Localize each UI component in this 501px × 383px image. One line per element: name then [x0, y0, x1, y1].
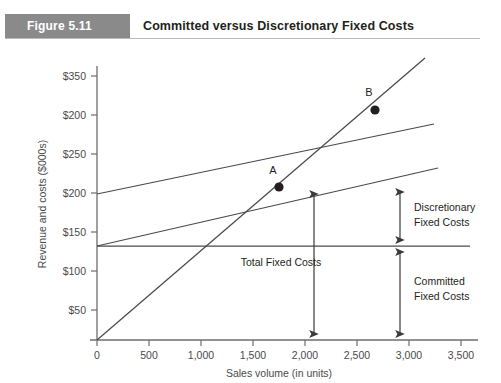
figure-header: Figure 5.11 Committed versus Discretiona…: [0, 14, 501, 40]
y-tick-label-300: $200: [63, 109, 87, 121]
figure-number-badge: Figure 5.11: [5, 14, 130, 38]
marker-a-label: A: [269, 164, 277, 176]
chart-plot-area: $50 $100 $150 $200 $250 $200 $350 0: [0, 44, 501, 383]
x-tick-label-2500: 2,500: [344, 349, 370, 361]
y-axis-ticks: [91, 76, 97, 310]
series-revenue: [97, 58, 425, 340]
series-total-fixed-costs: [97, 168, 438, 246]
marker-b: B: [365, 86, 379, 115]
x-axis-title: Sales volume (in units): [226, 367, 332, 379]
x-tick-label-3000: 3,000: [396, 349, 422, 361]
marker-b-dot: [370, 105, 379, 114]
x-tick-label-2000: 2,000: [292, 349, 318, 361]
y-tick-label-100: $100: [63, 265, 87, 277]
y-tick-label-50: $50: [68, 304, 86, 316]
series-total-costs: [97, 124, 434, 194]
x-tick-label-0: 0: [94, 349, 100, 361]
figure-title: Committed versus Discretionary Fixed Cos…: [143, 14, 414, 38]
annotation-discretionary-line1: Discretionary: [414, 201, 476, 213]
y-tick-label-350: $350: [63, 70, 87, 82]
x-axis-tick-labels: 0 500 1,000 1,500 2,000 2,500 3,000 3,50…: [94, 349, 474, 361]
annotation-discretionary-line2: Fixed Costs: [414, 216, 469, 228]
annotation-committed-line2: Fixed Costs: [414, 290, 469, 302]
x-tick-label-3500: 3,500: [448, 349, 474, 361]
y-tick-label-250: $250: [63, 148, 87, 160]
x-tick-label-500: 500: [140, 349, 158, 361]
x-tick-label-1000: 1,000: [188, 349, 214, 361]
x-axis-ticks: [97, 340, 461, 346]
y-tick-label-150: $150: [63, 226, 87, 238]
annotation-discretionary-fixed-costs: Discretionary Fixed Costs: [414, 201, 476, 228]
figure-root: Figure 5.11 Committed versus Discretiona…: [0, 0, 501, 383]
y-tick-label-200: $200: [63, 187, 87, 199]
marker-b-label: B: [365, 86, 372, 98]
y-axis-tick-labels: $50 $100 $150 $200 $250 $200 $350: [63, 70, 87, 316]
header-divider: [5, 38, 480, 39]
annotation-total-fixed-costs: Total Fixed Costs: [241, 256, 322, 268]
annotation-committed-line1: Committed: [414, 275, 465, 287]
marker-a-dot: [274, 182, 283, 191]
x-tick-label-1500: 1,500: [240, 349, 266, 361]
marker-a: A: [269, 164, 283, 192]
annotation-committed-fixed-costs: Committed Fixed Costs: [414, 275, 469, 302]
y-axis-title: Revenue and costs ($000s): [36, 140, 48, 268]
